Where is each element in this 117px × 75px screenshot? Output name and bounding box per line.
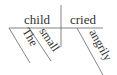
verb-word: cried — [70, 12, 96, 27]
modifier-word-the: The — [19, 25, 41, 48]
sentence-diagram: child cried The small angrily — [0, 0, 117, 75]
modifier-word-angrily: angrily — [86, 27, 115, 64]
